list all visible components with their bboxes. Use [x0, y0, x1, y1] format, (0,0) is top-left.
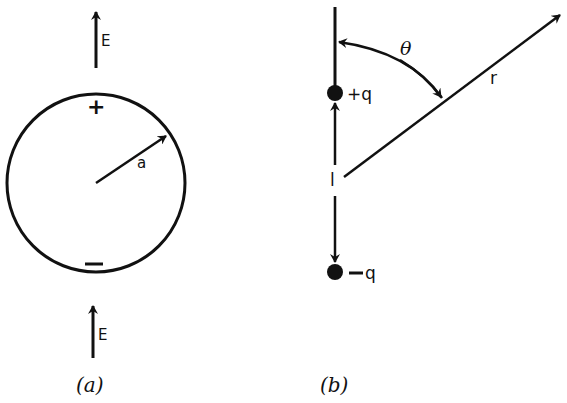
caption-b: (b) [320, 373, 348, 397]
distance-vector [344, 15, 560, 177]
distance-label: r [490, 68, 497, 88]
radius-label: a [137, 154, 146, 172]
field-label-top: E [101, 32, 110, 50]
field-label-bottom: E [98, 326, 107, 344]
dipole-diagram: E + a E (a) +q l q r [0, 0, 567, 403]
negative-charge [327, 264, 343, 280]
positive-charge [327, 85, 343, 101]
plus-charge-sign: + [87, 94, 105, 119]
figure-a: E + a E (a) [7, 12, 185, 397]
radius-arrow [96, 136, 166, 183]
caption-a: (a) [76, 373, 104, 397]
negative-charge-label: q [365, 263, 376, 283]
separation-label: l [330, 170, 335, 190]
angle-label: θ [400, 37, 412, 59]
positive-charge-label: +q [347, 84, 372, 104]
figure-b: +q l q r θ (b) [320, 7, 560, 397]
